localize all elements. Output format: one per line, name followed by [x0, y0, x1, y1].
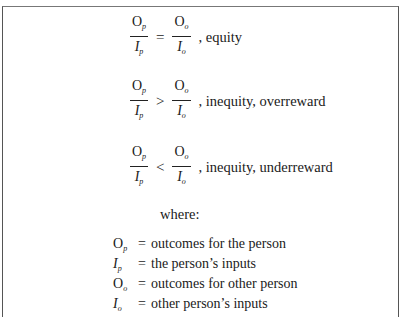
relation-sign: < [156, 159, 164, 176]
fraction-other: Oo Io [170, 14, 192, 60]
definition-text: outcomes for the person [151, 236, 286, 251]
equals-sign: = [133, 256, 151, 271]
fraction-other: Oo Io [170, 144, 192, 190]
numerator-symbol: O [174, 144, 184, 159]
definition-symbol: Op [113, 236, 133, 256]
numerator-symbol: O [132, 14, 142, 29]
fraction-person: Op Ip [128, 78, 150, 124]
fraction-other: Oo Io [170, 78, 192, 124]
equation-label: , inequity, underreward [198, 159, 332, 176]
numerator-symbol: O [132, 144, 142, 159]
fraction-person: Op Ip [128, 144, 150, 190]
denominator-subscript: p [139, 111, 143, 120]
definition-outcomes-person: Op = outcomes for the person [113, 236, 298, 256]
definition-text: other person’s inputs [151, 296, 268, 311]
numerator-subscript: o [185, 22, 189, 31]
numerator-symbol: O [132, 78, 142, 93]
definition-symbol: Oo [113, 276, 133, 296]
definition-outcomes-other: Oo = outcomes for other person [113, 276, 298, 296]
symbol-subscript: p [123, 244, 127, 253]
denominator-subscript: o [182, 47, 186, 56]
denominator-subscript: p [139, 177, 143, 186]
symbol-letter: O [113, 236, 123, 251]
numerator-subscript: p [142, 152, 146, 161]
fraction-person: Op Ip [128, 14, 150, 60]
symbol-subscript: o [118, 304, 122, 313]
definition-inputs-other: Io = other person’s inputs [113, 296, 298, 316]
numerator-symbol: O [174, 78, 184, 93]
equation-label: , equity [198, 29, 242, 46]
equals-sign: = [133, 236, 151, 251]
numerator-symbol: O [174, 14, 184, 29]
where-label: where: [160, 206, 199, 223]
denominator-subscript: p [139, 47, 143, 56]
numerator-subscript: p [142, 86, 146, 95]
definition-symbol: Io [113, 296, 133, 316]
symbol-letter: O [113, 276, 123, 291]
definition-text: the person’s inputs [151, 256, 256, 271]
definitions-list: Op = outcomes for the person Ip = the pe… [113, 236, 298, 316]
numerator-subscript: p [142, 22, 146, 31]
definition-inputs-person: Ip = the person’s inputs [113, 256, 298, 276]
numerator-subscript: o [185, 86, 189, 95]
equation-underreward: Op Ip < Oo Io , inequity, underreward [128, 144, 333, 190]
definition-text: outcomes for other person [151, 276, 298, 291]
relation-sign: > [156, 93, 164, 110]
equals-sign: = [133, 276, 151, 291]
equation-label: , inequity, overreward [198, 93, 325, 110]
definition-symbol: Ip [113, 256, 133, 276]
denominator-subscript: o [182, 177, 186, 186]
equals-sign: = [133, 296, 151, 311]
denominator-subscript: o [182, 111, 186, 120]
symbol-subscript: p [118, 264, 122, 273]
equation-equity: Op Ip = Oo Io , equity [128, 14, 242, 60]
symbol-subscript: o [123, 284, 127, 293]
equation-overreward: Op Ip > Oo Io , inequity, overreward [128, 78, 326, 124]
numerator-subscript: o [185, 152, 189, 161]
relation-sign: = [156, 29, 164, 46]
